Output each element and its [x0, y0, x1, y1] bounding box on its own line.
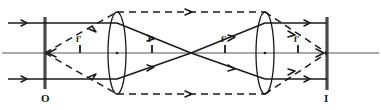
focal-length-label-4: f'	[294, 35, 300, 44]
object-plane-label: O	[41, 93, 50, 104]
image-plane-label: I	[324, 93, 328, 104]
figure-canvas: .axis { stroke:#8c8c8c; stroke-width:1.4…	[0, 0, 381, 110]
solid-ray-bundle	[8, 23, 327, 79]
focal-length-label-3: f'	[221, 35, 227, 44]
focal-length-label-2: f'	[148, 35, 154, 44]
focal-length-label-1: f'	[76, 35, 82, 44]
